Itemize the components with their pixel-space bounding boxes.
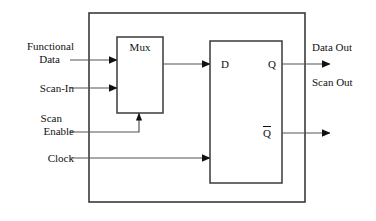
label-d-pin: D [221, 58, 229, 71]
label-mux: Mux [117, 41, 163, 54]
label-functional-data-line2: Data [39, 53, 60, 66]
label-scan-in: Scan-In [6, 82, 74, 95]
label-scan-enable-line1: Scan [41, 112, 62, 125]
label-q-pin: Q [268, 58, 276, 71]
label-qbar-pin: Q [263, 126, 271, 140]
label-scan-enable: ScanEnable [6, 112, 74, 137]
scan-flipflop-diagram: FunctionalData Scan-In ScanEnable Clock … [0, 0, 376, 221]
label-clock: Clock [6, 152, 74, 165]
label-data-out: Data Out [312, 41, 352, 54]
diagram-vector-layer [0, 0, 376, 221]
label-scan-out: Scan Out [312, 76, 353, 89]
wire-scan-enable [70, 113, 139, 132]
label-functional-data-line1: Functional [27, 40, 74, 52]
label-functional-data: FunctionalData [6, 40, 74, 65]
label-qbar-pin-text: Q [263, 126, 271, 139]
label-scan-enable-line2: Enable [43, 125, 74, 137]
